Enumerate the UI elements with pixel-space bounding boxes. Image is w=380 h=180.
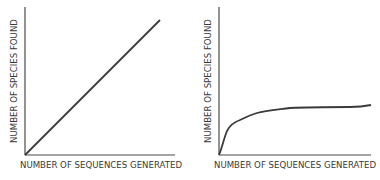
left-y-axis-label: NUMBER OF SPECIES FOUND xyxy=(9,19,19,143)
right-chart-saturation: NUMBER OF SPECIES FOUND NUMBER OF SEQUEN… xyxy=(190,0,380,180)
left-x-axis-label: NUMBER OF SEQUENCES GENERATED xyxy=(20,160,182,170)
left-chart-svg: NUMBER OF SPECIES FOUND NUMBER OF SEQUEN… xyxy=(0,0,190,180)
left-chart-linear: NUMBER OF SPECIES FOUND NUMBER OF SEQUEN… xyxy=(0,0,190,180)
right-data-curve xyxy=(219,105,371,155)
left-data-line xyxy=(25,20,160,155)
right-x-axis-label: NUMBER OF SEQUENCES GENERATED xyxy=(214,160,376,170)
right-y-axis-label: NUMBER OF SPECIES FOUND xyxy=(203,19,213,143)
right-chart-svg: NUMBER OF SPECIES FOUND NUMBER OF SEQUEN… xyxy=(190,0,380,180)
